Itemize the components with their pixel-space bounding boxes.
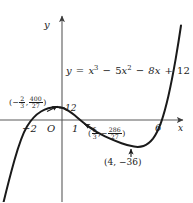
equation-operator-3: + — [163, 65, 173, 76]
equation-term4: 12 — [177, 65, 190, 76]
equation-equals: = — [75, 65, 85, 76]
local-max-close-paren: ) — [43, 98, 46, 107]
equation-lhs: y — [66, 65, 72, 76]
axis-label-x: x — [178, 124, 183, 133]
origin-label: O — [47, 124, 55, 134]
local-minimum-label: (4, −36) — [104, 158, 141, 167]
inflection-x-fraction: 53 — [92, 127, 98, 141]
y-intercept-label-12: 12 — [65, 104, 76, 113]
equation-term3: 8x — [148, 65, 160, 76]
local-max-x-denominator: 3 — [19, 102, 25, 109]
inflection-close-paren: ) — [122, 129, 125, 138]
inflection-y-denominator: 27 — [108, 133, 122, 140]
inflection-x-denominator: 3 — [92, 133, 98, 140]
inflection-y-fraction: 28627 — [108, 127, 122, 141]
equation-operator-2: − — [135, 65, 145, 76]
local-max-y-denominator: 27 — [29, 102, 43, 109]
inflection-point-label: (53,−28627) — [88, 127, 125, 141]
local-max-x-fraction: 23 — [19, 96, 25, 110]
inflection-y-sign: − — [101, 129, 108, 138]
axis-label-y: y — [44, 20, 50, 30]
local-max-y-fraction: 40027 — [29, 96, 43, 110]
equation-operator-1: − — [102, 65, 112, 76]
local-max-x-sign: − — [12, 98, 19, 107]
function-equation: y = x3 − 5x2 − 8x + 12 — [66, 66, 190, 76]
x-tick-label-neg2: −2 — [22, 124, 37, 134]
equation-term1-exponent: 3 — [94, 64, 98, 72]
x-tick-label-6: 6 — [155, 123, 161, 133]
cubic-function-figure: y x −2 O 1 6 12 y = x3 − 5x2 − 8x + 12 (… — [0, 0, 193, 202]
local-maximum-label: (−23,40027) — [9, 96, 46, 110]
equation-term2-exponent: 2 — [127, 64, 131, 72]
x-tick-label-1: 1 — [72, 124, 78, 134]
inflection-y-numerator: 286 — [108, 127, 122, 133]
cubic-curve — [4, 26, 181, 203]
local-max-y-numerator: 400 — [29, 96, 43, 102]
